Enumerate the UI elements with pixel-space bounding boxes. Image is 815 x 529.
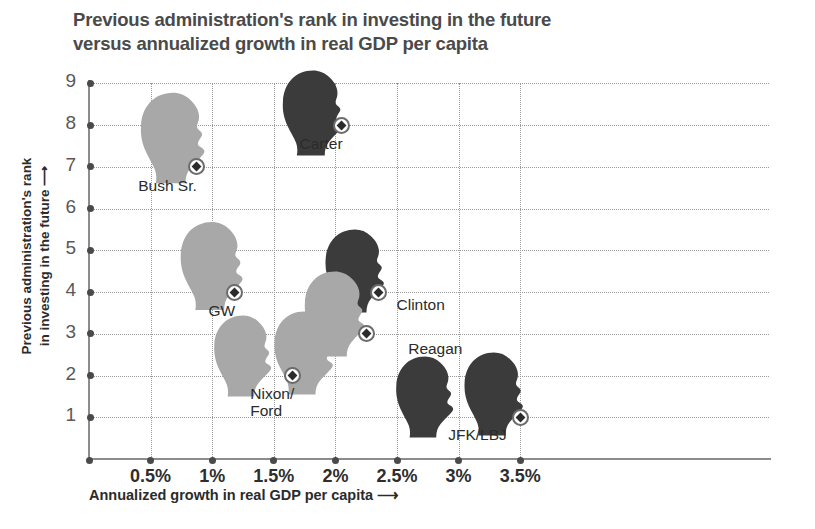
- y-axis-tick-dot: [87, 289, 94, 296]
- y-axis-tick-dot: [87, 205, 94, 212]
- y-tick-label: 3: [48, 321, 76, 343]
- y-tick-label: 7: [48, 154, 76, 176]
- y-axis-tick-dot: [87, 247, 94, 254]
- x-axis-tick-dot: [209, 457, 216, 464]
- y-tick-label: 5: [48, 237, 76, 259]
- x-tick-label: 2%: [300, 466, 370, 487]
- data-point-label: Clinton: [397, 296, 445, 313]
- gridline-horizontal: [89, 209, 769, 210]
- chart-title-line-1: Previous administration's rank in invest…: [73, 8, 773, 32]
- x-axis-tick-dot: [517, 457, 524, 464]
- y-tick-label: 2: [48, 363, 76, 385]
- data-point-label: Bush Sr.: [138, 177, 197, 194]
- y-axis-tick-dot: [87, 372, 94, 379]
- x-axis-arrow-icon: ⟶: [373, 487, 399, 503]
- y-tick-label: 9: [48, 70, 76, 92]
- plot-area: Bush Sr.CarterGWClintonReaganNixon/ Ford…: [89, 83, 769, 459]
- data-point-label: Nixon/ Ford: [250, 385, 294, 420]
- data-point-marker[interactable]: [284, 367, 301, 384]
- x-tick-label: 3.5%: [485, 466, 555, 487]
- data-point-label: JFK/LBJ: [448, 426, 507, 443]
- x-axis-label: Annualized growth in real GDP per capita…: [89, 487, 399, 503]
- axis-origin-dot: [86, 457, 93, 464]
- x-tick-label: 1.5%: [239, 466, 309, 487]
- y-axis-label-line-1: Previous administration's rank: [18, 110, 36, 402]
- data-point-label: Carter: [300, 135, 343, 152]
- gridline-horizontal: [89, 334, 769, 335]
- data-point-marker[interactable]: [226, 284, 243, 301]
- x-tick-label: 2.5%: [362, 466, 432, 487]
- y-axis-tick-dot: [87, 414, 94, 421]
- data-point-label: Reagan: [408, 340, 462, 357]
- y-tick-label: 8: [48, 112, 76, 134]
- data-point-marker[interactable]: [333, 117, 350, 134]
- y-axis-tick-dot: [87, 122, 94, 129]
- data-point-marker[interactable]: [370, 284, 387, 301]
- chart-title-line-2: versus annualized growth in real GDP per…: [73, 32, 773, 56]
- y-tick-label: 6: [48, 196, 76, 218]
- x-axis-label-text: Annualized growth in real GDP per capita: [89, 487, 373, 503]
- x-axis-tick-dot: [332, 457, 339, 464]
- gridline-horizontal: [89, 83, 769, 84]
- y-axis-tick-dot: [87, 80, 94, 87]
- y-axis-label: Previous administration's rank in invest…: [18, 110, 48, 400]
- data-point-marker[interactable]: [512, 409, 529, 426]
- chart-title: Previous administration's rank in invest…: [73, 8, 773, 55]
- data-point-marker[interactable]: [358, 325, 375, 342]
- x-tick-label: 3%: [424, 466, 494, 487]
- president-silhouette-icon: [268, 310, 340, 396]
- x-axis-tick-dot: [455, 457, 462, 464]
- y-tick-label: 1: [48, 404, 76, 426]
- x-axis-tick-dot: [270, 457, 277, 464]
- x-tick-label: 1%: [177, 466, 247, 487]
- x-axis-tick-dot: [147, 457, 154, 464]
- chart-container: Previous administration's rank in invest…: [0, 0, 815, 529]
- y-axis-tick-dot: [87, 330, 94, 337]
- y-axis-tick-dot: [87, 163, 94, 170]
- x-tick-label: 0.5%: [116, 466, 186, 487]
- y-tick-label: 4: [48, 279, 76, 301]
- data-point-marker[interactable]: [188, 158, 205, 175]
- x-axis-tick-dot: [394, 457, 401, 464]
- data-point-label: GW: [208, 302, 235, 319]
